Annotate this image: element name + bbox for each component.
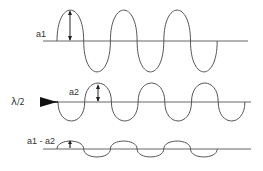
label-a1: a1 — [36, 29, 46, 39]
amplitude-arrow-a2-icon — [96, 84, 100, 102]
label-half-wavelength: λ/2 — [11, 97, 25, 108]
wave-a1-minus-a2 — [43, 140, 251, 157]
amplitude-arrow-a1-icon — [68, 10, 72, 41]
wave-a1 — [43, 10, 248, 72]
label-a1-minus-a2: a1 - a2 — [27, 136, 55, 146]
lambda-divisor: /2 — [17, 98, 25, 107]
label-a2: a2 — [69, 87, 79, 97]
